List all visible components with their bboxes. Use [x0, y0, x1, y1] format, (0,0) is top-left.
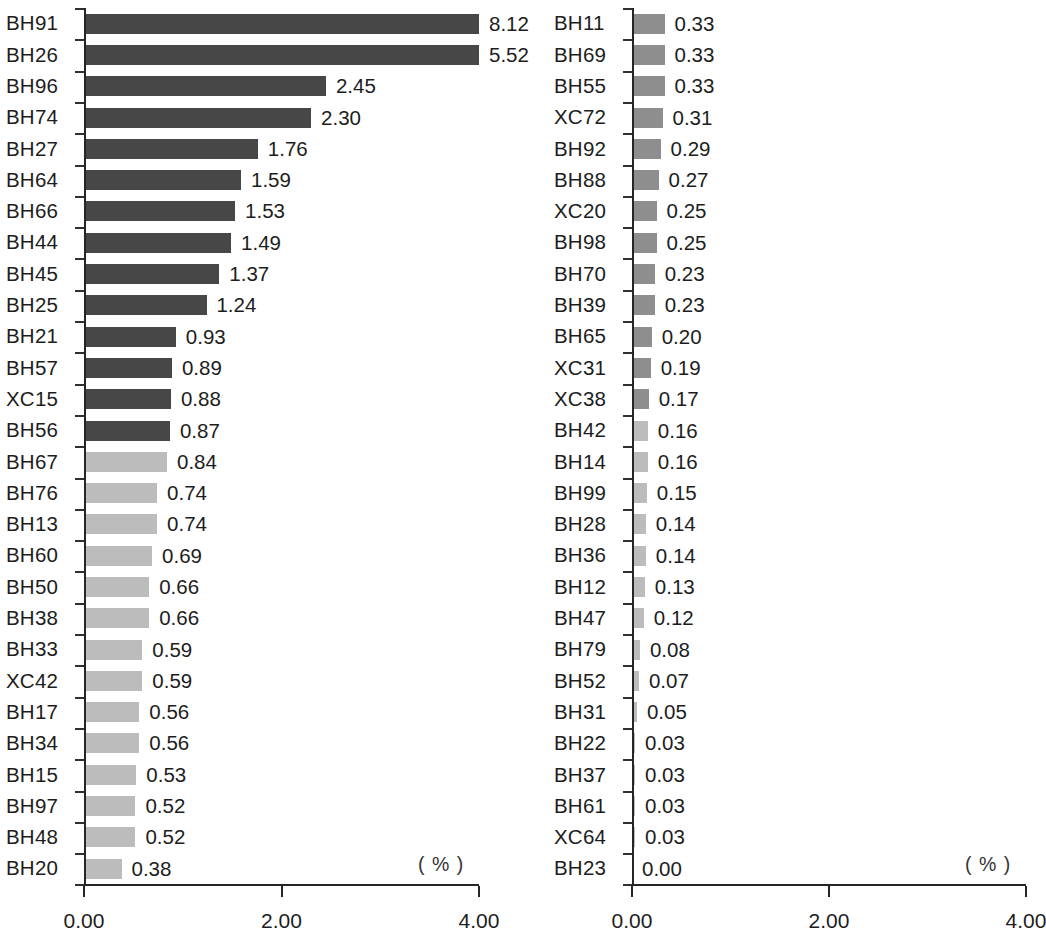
bar-value-label: 0.16	[658, 420, 698, 441]
bar-row: BH170.56	[0, 697, 540, 728]
category-label: BH23	[540, 858, 632, 879]
bar-value-label: 0.23	[665, 295, 705, 316]
bar-plot-cell: 0.03	[632, 759, 1043, 790]
bar-plot-cell: 0.27	[632, 164, 1043, 195]
category-tick	[75, 71, 84, 73]
bar-plot-cell: 0.29	[632, 133, 1043, 164]
bar	[84, 76, 326, 96]
category-tick	[75, 540, 84, 542]
bar	[84, 733, 139, 753]
category-label: BH61	[540, 796, 632, 817]
bar-value-label: 0.08	[650, 639, 690, 660]
category-label: BH47	[540, 608, 632, 629]
category-tick	[623, 352, 632, 354]
bar-row: BH520.07	[540, 665, 1043, 696]
bar-plot-cell: 0.12	[632, 603, 1043, 634]
category-label: BH28	[540, 514, 632, 535]
bar-value-label: 0.33	[675, 45, 715, 66]
bar-plot-cell: 0.33	[632, 39, 1043, 70]
bar-row: XC200.25	[540, 196, 1043, 227]
bar-plot-cell: 0.25	[632, 227, 1043, 258]
bar	[632, 170, 659, 190]
bar	[84, 327, 176, 347]
category-label: BH14	[540, 452, 632, 473]
bar	[84, 233, 231, 253]
category-label: BH96	[0, 76, 84, 97]
bar-plot-cell: 0.93	[84, 321, 540, 352]
bar-plot-cell: 0.33	[632, 71, 1043, 102]
category-label: BH13	[0, 514, 84, 535]
bar-plot-cell: 0.56	[84, 728, 540, 759]
bar	[84, 765, 136, 785]
bar-plot-cell: 0.20	[632, 321, 1043, 352]
bar-plot-cell: 0.33	[632, 8, 1043, 39]
bar-value-label: 2.45	[336, 76, 376, 97]
bar	[632, 295, 655, 315]
category-tick	[75, 822, 84, 824]
bar	[632, 514, 646, 534]
category-tick	[623, 634, 632, 636]
bar-plot-cell: 2.45	[84, 71, 540, 102]
bar-value-label: 0.25	[667, 201, 707, 222]
category-tick	[75, 571, 84, 573]
category-tick	[623, 165, 632, 167]
bar-value-label: 0.33	[675, 13, 715, 34]
category-tick	[75, 415, 84, 417]
category-tick	[75, 446, 84, 448]
category-label: BH17	[0, 702, 84, 723]
bar	[84, 139, 258, 159]
bar-value-label: 1.24	[216, 295, 256, 316]
bar-row: BH120.13	[540, 571, 1043, 602]
unit-label: ( % )	[418, 855, 464, 875]
bar	[84, 201, 235, 221]
bar-row: BH280.14	[540, 509, 1043, 540]
bar-row: BH150.53	[0, 759, 540, 790]
category-tick	[75, 133, 84, 135]
category-tick	[75, 165, 84, 167]
bar-value-label: 0.53	[146, 765, 186, 786]
bar-value-label: 0.03	[645, 796, 685, 817]
bar-plot-cell: 0.19	[632, 352, 1043, 383]
category-label: XC38	[540, 389, 632, 410]
bar-value-label: 0.38	[132, 858, 172, 879]
category-label: BH99	[540, 483, 632, 504]
category-label: BH55	[540, 76, 632, 97]
category-tick	[75, 196, 84, 198]
bar-row: BH110.33	[540, 8, 1043, 39]
category-label: BH52	[540, 671, 632, 692]
category-tick	[623, 540, 632, 542]
value-axis-tick	[281, 886, 283, 897]
bar-plot-cell: 0.31	[632, 102, 1043, 133]
category-tick	[75, 258, 84, 260]
bar-value-label: 0.93	[186, 326, 226, 347]
bar-plot-cell: 2.30	[84, 102, 540, 133]
bar-value-label: 0.17	[659, 389, 699, 410]
bar-plot-cell: 1.49	[84, 227, 540, 258]
category-label: BH20	[0, 858, 84, 879]
bar-plot-cell: 0.15	[632, 477, 1043, 508]
bar	[84, 671, 142, 691]
category-label: BH34	[0, 733, 84, 754]
bar	[84, 859, 122, 879]
bar-value-label: 2.30	[321, 107, 361, 128]
category-axis-spine	[632, 8, 634, 884]
category-tick	[75, 853, 84, 855]
bar	[632, 327, 652, 347]
category-tick	[623, 71, 632, 73]
bar-plot-cell: 0.07	[632, 665, 1043, 696]
bar-value-label: 0.74	[167, 483, 207, 504]
category-label: BH12	[540, 577, 632, 598]
bar-row: BH641.59	[0, 164, 540, 195]
bar-plot-cell: 0.89	[84, 352, 540, 383]
category-label: BH26	[0, 45, 84, 66]
bar-value-label: 0.59	[152, 671, 192, 692]
bar-row: BH390.23	[540, 290, 1043, 321]
bar-row: BH650.20	[540, 321, 1043, 352]
category-tick	[623, 102, 632, 104]
bar-value-label: 5.52	[489, 45, 529, 66]
bar-value-label: 0.74	[167, 514, 207, 535]
bar-plot-cell: 1.53	[84, 196, 540, 227]
bar-value-label: 1.49	[241, 232, 281, 253]
category-tick	[75, 39, 84, 41]
bar-row: BH962.45	[0, 71, 540, 102]
